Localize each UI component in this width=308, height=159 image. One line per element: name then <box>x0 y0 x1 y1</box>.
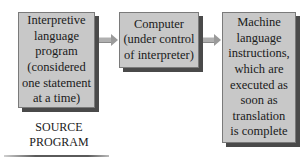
right-arrow-icon <box>99 36 119 44</box>
arrow-head <box>111 34 118 46</box>
arrow-head <box>214 34 221 46</box>
right-arrow-icon <box>203 36 222 44</box>
source-program-label: SOURCE PROGRAM <box>18 120 100 150</box>
computer-interpreter-box: Computer (under control of interpreter) <box>119 12 199 68</box>
machine-language-text: Machine language instructions, which are… <box>228 15 289 140</box>
divider <box>4 155 109 157</box>
machine-language-box: Machine language instructions, which are… <box>222 12 296 143</box>
computer-interpreter-text: Computer (under control of interpreter) <box>123 17 194 64</box>
source-program-box: Interpretive language program (considere… <box>18 12 95 108</box>
source-program-text: Interpretive language program (considere… <box>22 13 91 107</box>
